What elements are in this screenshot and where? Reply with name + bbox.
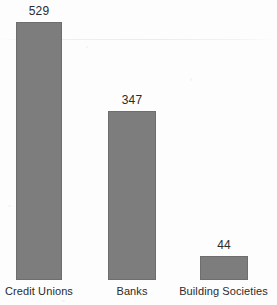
bar-chart: 529 Credit Unions 347 Banks 44 Building …	[0, 0, 277, 305]
bar-value-label: 347	[102, 93, 162, 107]
bar-value-label: 44	[194, 238, 254, 252]
bar-value-label: 529	[9, 4, 69, 18]
plot-area: 529 Credit Unions 347 Banks 44 Building …	[0, 0, 277, 305]
category-label-building-societies: Building Societies	[170, 285, 277, 297]
category-label-credit-unions: Credit Unions	[0, 285, 78, 297]
axis-baseline	[0, 280, 277, 281]
bar-building-societies[interactable]	[200, 256, 248, 280]
bar-banks[interactable]	[108, 111, 156, 280]
category-label-banks: Banks	[102, 285, 162, 297]
bar-credit-unions[interactable]	[16, 22, 62, 280]
